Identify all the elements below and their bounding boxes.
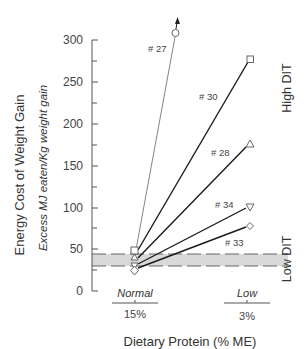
series-label-28: # 28 bbox=[211, 147, 230, 158]
diamond-marker-icon bbox=[131, 266, 139, 275]
y-tick-250: 250 bbox=[63, 75, 83, 89]
series-label-34: # 34 bbox=[215, 199, 234, 210]
arrow-up-icon bbox=[175, 17, 180, 24]
y-axis-title: Energy Cost of Weight Gain bbox=[12, 95, 27, 256]
low-dit-label: Low DIT bbox=[280, 235, 294, 282]
y-tick-100: 100 bbox=[63, 201, 83, 215]
y-tick-0: 0 bbox=[76, 284, 83, 298]
high-dit-label: High DIT bbox=[280, 63, 294, 113]
series-label-27: # 27 bbox=[148, 43, 167, 54]
y-tick-200: 200 bbox=[63, 117, 83, 131]
low-dit-band bbox=[92, 254, 288, 266]
y-axis-subtitle: Excess MJ eaten/Kg weight gain bbox=[37, 85, 49, 251]
chart-canvas: 300 250 200 150 100 50 0 Energy Cost of … bbox=[0, 0, 306, 349]
x-axis-title: Dietary Protein (% ME) bbox=[124, 334, 257, 349]
line-30 bbox=[138, 62, 248, 250]
category-normal-label: Normal bbox=[117, 287, 153, 299]
y-tick-50: 50 bbox=[70, 242, 84, 256]
triangle-down-marker-icon bbox=[246, 204, 254, 211]
diamond-marker-icon bbox=[247, 223, 254, 230]
category-low-value: 3% bbox=[239, 310, 255, 322]
series-lines bbox=[135, 17, 248, 268]
y-tick-labels: 300 250 200 150 100 50 0 bbox=[63, 33, 83, 298]
triangle-up-marker-icon bbox=[246, 140, 254, 147]
series-label-33: # 33 bbox=[225, 237, 244, 248]
x-categories: Normal 15% Low 3% bbox=[112, 287, 270, 322]
square-marker-icon bbox=[131, 247, 138, 254]
square-marker-icon bbox=[247, 56, 254, 63]
y-tick-150: 150 bbox=[63, 159, 83, 173]
markers-low bbox=[172, 30, 254, 230]
category-normal-value: 15% bbox=[124, 308, 146, 320]
category-low-label: Low bbox=[237, 287, 258, 299]
y-axis bbox=[92, 40, 98, 291]
y-tick-300: 300 bbox=[63, 33, 83, 47]
circle-marker-icon bbox=[172, 30, 179, 37]
series-label-30: # 30 bbox=[199, 91, 218, 102]
